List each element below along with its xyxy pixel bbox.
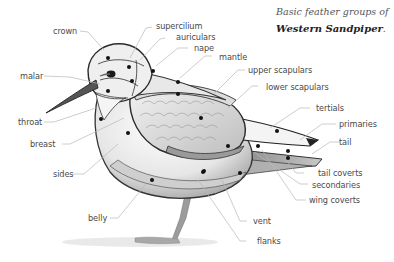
label-malar: malar [20,72,43,80]
dot-mantle [176,80,180,84]
label-primaries: primaries [339,120,377,128]
dot-throat [99,117,103,121]
label-tail-coverts: tail coverts [318,169,362,177]
dot-flanks [201,170,205,174]
label-belly: belly [88,214,107,222]
label-breast: breast [30,140,55,148]
dot-lower-scapulars [199,116,203,120]
label-throat: throat [18,118,42,126]
label-flanks: flanks [257,237,281,245]
label-sides: sides [53,170,74,178]
bill [46,80,98,113]
label-tail: tail [339,138,351,146]
label-wing-coverts: wing coverts [309,196,360,204]
dot-tail [286,149,290,153]
title-species: Western Sandpiper [276,23,383,35]
dot-nape [151,69,155,73]
label-tertials: tertials [316,104,344,112]
title-period: . [383,23,386,34]
diagram-title: Basic feather groups of Western Sandpipe… [276,7,389,36]
dot-malar [106,89,110,93]
label-crown: crown [53,27,77,35]
dot-belly [150,178,154,182]
label-mantle: mantle [219,53,247,61]
dot-upper-scapulars [176,92,180,96]
label-auriculars: auriculars [176,33,215,41]
label-upper-scapulars: upper scapulars [248,66,312,74]
dot-secondaries [226,144,230,148]
label-secondaries: secondaries [312,181,360,189]
dot-breast [126,131,130,135]
dot-supercilium [127,65,131,69]
label-vent: vent [253,217,271,225]
label-nape: nape [194,44,214,52]
dot-crown [106,56,110,60]
feather-diagram: Basic feather groups of Western Sandpipe… [0,0,394,262]
dot-auriculars [130,79,134,83]
dot-vent [238,171,242,175]
label-supercilium: supercilium [156,22,202,30]
label-lower-scapulars: lower scapulars [266,83,329,91]
dot-tertials [275,129,279,133]
title-line1: Basic feather groups of [276,7,389,18]
dot-tail-coverts [286,156,290,160]
dot-wing-coverts [256,144,260,148]
